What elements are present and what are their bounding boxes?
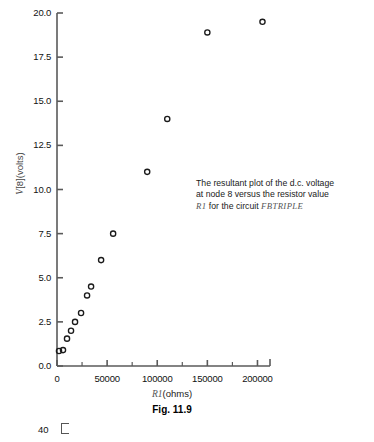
annotation-circuit-name: FBTRIPLE bbox=[261, 201, 303, 211]
plot-area: 0.02.55.07.510.012.515.017.520.0 0500001… bbox=[0, 0, 374, 442]
x-axis-title-symbol: R1 bbox=[152, 389, 163, 399]
data-point bbox=[205, 30, 210, 35]
y-axis-title: V[8](volts) bbox=[14, 129, 25, 219]
y-axis-title-symbol: V bbox=[15, 189, 25, 195]
data-point bbox=[88, 284, 93, 289]
annotation-line-3-mid: for the circuit bbox=[206, 201, 261, 211]
x-axis-title-units: (ohms) bbox=[163, 388, 193, 399]
y-axis-title-units: [8](volts) bbox=[14, 152, 25, 188]
x-tick-marks bbox=[57, 360, 257, 366]
annotation-resistor-symbol: R1 bbox=[196, 201, 206, 211]
y-tick-marks bbox=[57, 13, 63, 366]
next-figure-tick-label: 40 bbox=[38, 424, 49, 435]
annotation-line-3: R1 for the circuit FBTRIPLE bbox=[196, 201, 368, 212]
data-point bbox=[111, 231, 116, 236]
figure-11-9: 0.02.55.07.510.012.515.017.520.0 0500001… bbox=[0, 0, 374, 442]
y-tick-label: 15.0 bbox=[15, 95, 51, 106]
annotation-line-1: The resultant plot of the d.c. voltage bbox=[196, 178, 368, 189]
y-tick-label: 2.5 bbox=[15, 316, 51, 327]
data-point bbox=[145, 169, 150, 174]
data-point bbox=[99, 258, 104, 263]
x-tick-label: 200000 bbox=[227, 373, 287, 384]
data-point bbox=[84, 293, 89, 298]
data-point bbox=[260, 19, 265, 24]
figure-caption: Fig. 11.9 bbox=[122, 404, 222, 415]
data-point bbox=[72, 319, 77, 324]
data-point bbox=[165, 116, 170, 121]
data-point bbox=[64, 336, 69, 341]
y-tick-label: 7.5 bbox=[15, 228, 51, 239]
y-tick-label: 0.0 bbox=[15, 360, 51, 371]
y-tick-label: 17.5 bbox=[15, 51, 51, 62]
data-point bbox=[68, 328, 73, 333]
y-tick-label: 5.0 bbox=[15, 272, 51, 283]
next-figure-axis-fragment bbox=[61, 423, 69, 434]
x-axis-title: R1(ohms) bbox=[112, 388, 232, 399]
data-point bbox=[78, 310, 83, 315]
annotation-line-2: at node 8 versus the resistor value bbox=[196, 189, 368, 200]
plot-annotation: The resultant plot of the d.c. voltage a… bbox=[196, 178, 368, 212]
y-tick-label: 20.0 bbox=[15, 7, 51, 18]
